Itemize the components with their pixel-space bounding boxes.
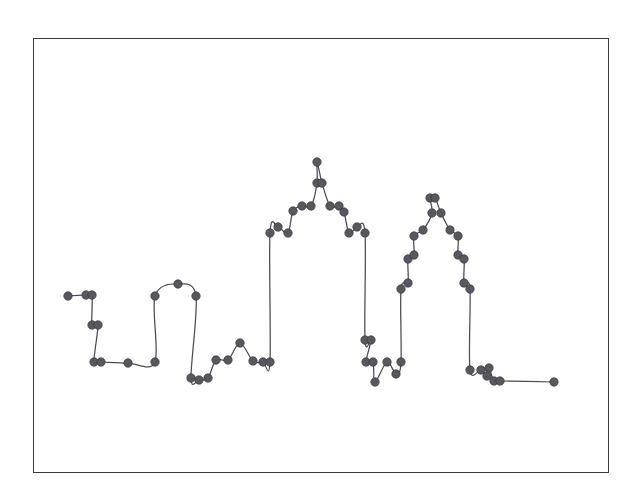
plot-frame-border bbox=[33, 38, 609, 473]
chart-figure bbox=[0, 0, 635, 499]
